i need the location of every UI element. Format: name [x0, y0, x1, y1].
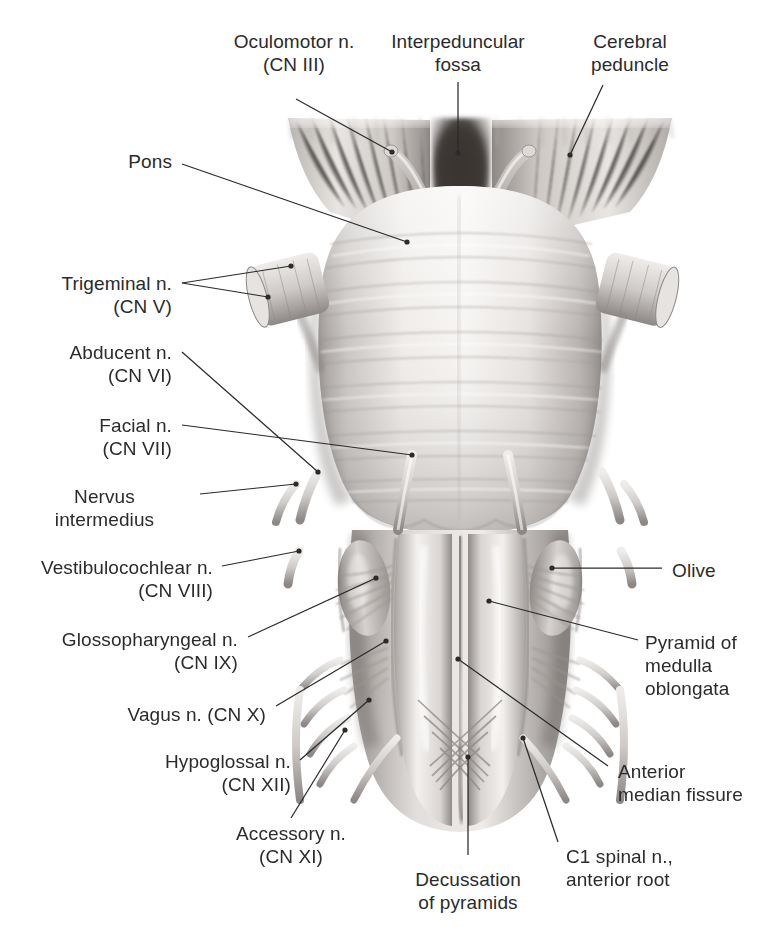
leader-dot-oculomotor	[389, 149, 394, 154]
label-abducent: Abducent n. (CN VI)	[12, 341, 172, 387]
leader-dot-decussation	[465, 754, 470, 759]
label-facial: Facial n. (CN VII)	[12, 414, 172, 460]
leader-dot-cerebral-peduncle	[567, 152, 572, 157]
leader-dot-pyramid	[486, 598, 491, 603]
leader-line-nervus-intermedius	[200, 484, 296, 494]
label-c1-spinal: C1 spinal n., anterior root	[566, 845, 726, 891]
label-hypoglossal: Hypoglossal n. (CN XII)	[8, 750, 291, 796]
leader-dot-trigeminal-b	[265, 294, 270, 299]
leader-line-vestibulocochlear	[222, 551, 299, 566]
leader-dot-accessory	[342, 727, 347, 732]
leader-dot-nervus-intermedius	[293, 481, 298, 486]
leader-dot-anterior-fissure	[455, 656, 460, 661]
anatomical-figure: Oculomotor n. (CN III)Interpeduncular fo…	[0, 0, 780, 927]
leader-line-hypoglossal	[300, 700, 369, 760]
label-vagus: Vagus n. (CN X)	[8, 703, 266, 726]
leader-dot-facial	[409, 452, 414, 457]
label-oculomotor: Oculomotor n. (CN III)	[219, 30, 369, 76]
label-decussation: Decussation of pyramids	[392, 868, 544, 914]
leader-dot-abducent	[315, 469, 320, 474]
label-anterior-fissure: Anterior median fissure	[618, 760, 778, 806]
label-vestibulocochlear: Vestibulocochlear n. (CN VIII)	[8, 556, 213, 602]
label-pons: Pons	[22, 150, 172, 173]
leader-dot-glossopharyngeal	[373, 575, 378, 580]
label-accessory: Accessory n. (CN XI)	[205, 822, 377, 868]
leader-dot-vagus	[383, 638, 388, 643]
pons	[310, 186, 611, 534]
label-pyramid: Pyramid of medulla oblongata	[645, 631, 775, 700]
label-trigeminal: Trigeminal n. (CN V)	[12, 272, 172, 318]
leader-dot-hypoglossal	[366, 697, 371, 702]
label-interpeduncular: Interpeduncular fossa	[378, 30, 538, 76]
leader-dot-c1-spinal	[520, 735, 525, 740]
leader-dot-trigeminal-a	[288, 263, 293, 268]
leader-dot-vestibulocochlear	[296, 548, 301, 553]
label-glossopharyngeal: Glossopharyngeal n. (CN IX)	[8, 628, 238, 674]
leader-dot-olive	[549, 565, 554, 570]
leader-dot-pons	[404, 239, 409, 244]
label-nervus-intermedius: Nervus intermedius	[22, 485, 187, 531]
leader-line-abducent	[182, 352, 318, 472]
leader-dot-interpeduncular	[455, 150, 460, 155]
label-olive: Olive	[672, 559, 772, 582]
label-cerebral-peduncle: Cerebral peduncle	[560, 30, 700, 76]
